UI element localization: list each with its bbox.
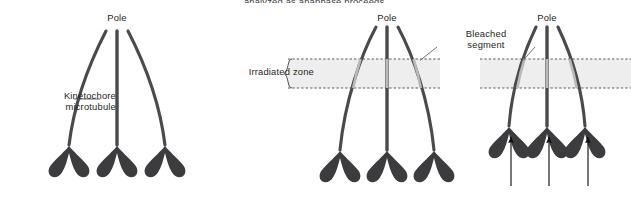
chromosome <box>565 127 606 158</box>
kinetochore-microtubule-left <box>69 31 106 145</box>
label-pole-panel-1: Pole <box>82 12 152 23</box>
panel-irradiated <box>284 27 454 182</box>
chromosome <box>489 127 530 158</box>
panel-anaphase-progress <box>480 27 631 186</box>
chromosome <box>145 146 186 177</box>
kinetochore-microtubule-right <box>398 27 434 150</box>
chromosome <box>49 146 90 177</box>
chromosome-group <box>320 151 455 182</box>
label-bleached-segment: Bleached segment <box>438 28 534 51</box>
kinetochore-microtubule-group <box>69 31 165 145</box>
label-irradiated-zone: Irradiated zone <box>210 66 314 77</box>
kinetochore-microtubule-group <box>340 27 434 150</box>
label-kinetochore-microtubule: Kinetochore microtubule <box>4 90 116 113</box>
label-pole-panel-3: Pole <box>512 12 582 23</box>
figure-anaphase-photobleaching: analyzed as anaphase proceeds. Kinetocho… <box>0 0 631 199</box>
irradiated-zone-band-right <box>480 59 631 88</box>
chromosome <box>527 127 568 158</box>
chromosome <box>367 151 408 182</box>
chromosome <box>97 146 138 177</box>
chromosome <box>320 151 361 182</box>
kinetochore-microtubule-right <box>128 31 165 145</box>
leader-line-bleached-left <box>420 47 437 61</box>
label-pole-panel-2: Pole <box>352 12 422 23</box>
figure-caption-top: analyzed as anaphase proceeds. <box>0 0 631 3</box>
chromosome-group <box>49 146 186 177</box>
kinetochore-microtubule-left <box>340 27 376 150</box>
chromosome <box>414 151 455 182</box>
